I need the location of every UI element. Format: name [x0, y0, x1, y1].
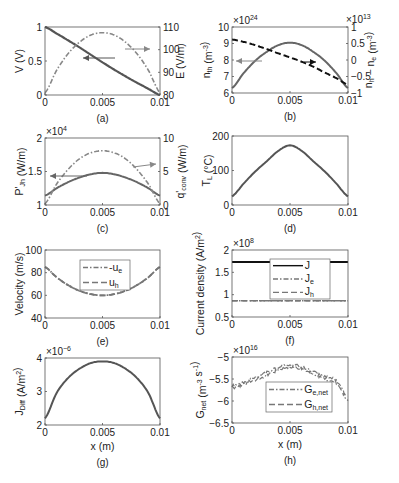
x-tick-label: 0.005	[277, 319, 302, 330]
x-tick-label: 0	[42, 320, 48, 331]
y-tick-label: 60	[31, 290, 43, 301]
y-tick-label: 2	[223, 245, 229, 256]
y-tick-label: 2	[36, 420, 42, 431]
x-tick-label: 0.01	[338, 425, 358, 436]
x-tick-label: 0	[42, 97, 48, 108]
y-tick-label: −5	[218, 352, 230, 363]
chart-panel-b: 00.0050.01678910−1−0.500.51×1024×1013nth…	[198, 13, 378, 122]
x-tick-label: 0.005	[90, 427, 115, 438]
y-tick-label: 7	[223, 71, 229, 82]
panel-caption: (d)	[284, 223, 296, 234]
y-tick-label: 9	[223, 38, 229, 49]
y-axis-label: Current density (A/m2)	[190, 232, 206, 336]
chart-panel-d: 00.0050.010100200TL (°C)(d)	[200, 131, 358, 235]
y-axis-label: P'Jh (W/m)	[13, 148, 27, 196]
x-tick-label: 0.005	[90, 320, 115, 331]
legend-entry: J	[305, 259, 310, 271]
series-j-diff	[45, 361, 160, 418]
y-tick-label: 1.5	[28, 166, 42, 177]
panel-caption: (c)	[97, 223, 109, 234]
y2-tick-label: 110	[163, 22, 179, 33]
y-tick-label: 100	[212, 165, 229, 176]
y2-axis-label: E (V/m)	[174, 43, 186, 79]
x-axis-label: x (m)	[91, 440, 115, 452]
y-tick-label: 200	[212, 131, 229, 142]
x-tick-label: 0.01	[338, 319, 358, 330]
y-axis-label: JDiff (A/m2)	[11, 367, 27, 415]
x-tick-label: 0.01	[150, 427, 170, 438]
y-tick-label: −5.5	[209, 374, 229, 385]
y-exponent: ×1024	[233, 14, 258, 26]
chart-panel-a: 00.0050.0100.518090100110V (V)E (V/m)(a)	[13, 22, 186, 125]
x-tick-label: 0.005	[90, 97, 115, 108]
axes-box	[45, 138, 160, 205]
panel-caption: (h)	[284, 455, 296, 466]
chart-panel-f: 00.0050.010.511.52×108Current density (A…	[190, 232, 358, 346]
panel-caption: (f)	[285, 335, 294, 346]
y-tick-label: 6	[223, 88, 229, 99]
series-q-conv	[45, 151, 160, 204]
series-t-l	[232, 145, 348, 196]
y-tick-label: 1.5	[215, 267, 229, 278]
x-tick-label: 0.005	[90, 207, 115, 218]
y-tick-label: 3	[36, 386, 42, 397]
x-tick-label: 0.01	[338, 207, 358, 218]
y-tick-label: 1	[36, 22, 42, 33]
y-tick-label: 8	[223, 55, 229, 66]
panel-caption: (b)	[284, 111, 296, 122]
y-axis-label: TL (°C)	[200, 154, 214, 186]
y-axis-label: Gnet (m-3 s-1)	[188, 361, 208, 418]
panel-caption: (e)	[96, 336, 108, 347]
chart-panel-g: 00.0050.01234×10−6JDiff (A/m2)x (m)(g)	[11, 345, 170, 468]
x-tick-label: 0	[42, 207, 48, 218]
panel-caption: (a)	[96, 113, 108, 124]
axes-box	[45, 358, 160, 425]
y-tick-label: 1	[223, 289, 229, 300]
y-tick-label: 100	[25, 245, 42, 256]
legend: JJeJh	[270, 259, 330, 299]
y-tick-label: 0	[223, 200, 229, 211]
y-exponent: ×104	[46, 125, 67, 137]
chart-panel-e: 00.0050.01406080100Velocity (m/s)(e)-ueu…	[13, 245, 170, 348]
y-exponent: ×1016	[233, 344, 258, 356]
y-axis-label: Velocity (m/s)	[13, 252, 25, 315]
x-tick-label: 0	[229, 207, 235, 218]
y-tick-label: 80	[31, 267, 43, 278]
y-tick-label: 10	[218, 22, 230, 33]
x-tick-label: 0	[229, 319, 235, 330]
y-tick-label: 4	[36, 353, 42, 364]
y-tick-label: 1	[36, 200, 42, 211]
y-tick-label: 0.5	[215, 312, 229, 323]
y2-tick-label: 0.5	[351, 38, 365, 49]
x-axis-label: x (m)	[278, 438, 302, 450]
y-tick-label: 0	[36, 90, 42, 101]
y-axis-label: nth (m-3)	[198, 42, 214, 79]
y2-tick-label: 5	[163, 166, 169, 177]
y-exponent: ×108	[233, 237, 254, 249]
axes-box	[232, 136, 348, 205]
y2-exponent: ×1013	[346, 13, 371, 25]
x-tick-label: 0	[229, 425, 235, 436]
legend: -ueuh	[80, 260, 130, 290]
y2-tick-label: 0	[163, 200, 169, 211]
x-tick-label: 0	[229, 95, 235, 106]
y-tick-label: 2	[36, 133, 42, 144]
y-tick-label: −6	[218, 396, 230, 407]
chart-panel-c: 00.0050.0111.520510×104P'Jh (W/m)q'conv …	[13, 125, 188, 234]
x-tick-label: 0	[42, 427, 48, 438]
x-tick-label: 0.005	[277, 207, 302, 218]
chart-panel-h: 00.0050.01−6.5−6−5.5−5×1016Gnet (m-3 s-1…	[188, 344, 358, 466]
axes-box	[232, 27, 348, 93]
y-tick-label: 0.5	[28, 56, 42, 67]
y-exponent: ×10−6	[46, 345, 71, 357]
panel-caption: (g)	[96, 457, 108, 468]
x-tick-label: 0.005	[277, 95, 302, 106]
y2-tick-label: 80	[163, 90, 175, 101]
y-tick-label: 40	[31, 313, 43, 324]
y2-axis-label: q'conv (W/m)	[174, 144, 188, 198]
y2-tick-label: 90	[163, 67, 175, 78]
x-tick-label: 0.01	[150, 320, 170, 331]
y-tick-label: −6.5	[209, 418, 229, 429]
y2-tick-label: 10	[163, 133, 175, 144]
figure-canvas: 00.0050.0100.518090100110V (V)E (V/m)(a)…	[0, 0, 399, 483]
